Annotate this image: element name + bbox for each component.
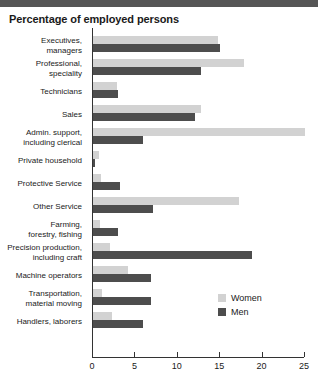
bar-men	[92, 251, 252, 259]
chart-row: Handlers, laborers	[0, 310, 318, 333]
category-label-line: Technicians	[40, 87, 82, 96]
category-label-line: Farming,	[50, 220, 82, 229]
category-label: Precision production,including craft	[0, 241, 86, 264]
chart-row: Professional,speciality	[0, 57, 318, 80]
category-label-line: Transportation,	[28, 289, 82, 298]
legend-swatch-women-icon	[218, 294, 226, 302]
category-label: Other Service	[0, 195, 86, 218]
bar-group	[92, 126, 318, 149]
bar-group	[92, 80, 318, 103]
x-axis-tick-label: 0	[89, 361, 94, 371]
bar-men	[92, 67, 201, 75]
chart-row: Other Service	[0, 195, 318, 218]
chart-page: Percentage of employed persons Executive…	[0, 0, 318, 382]
x-axis-tick	[219, 352, 220, 357]
bar-group	[92, 57, 318, 80]
bar-men	[92, 320, 143, 328]
bar-group	[92, 103, 318, 126]
category-label-line: Private household	[18, 156, 82, 165]
x-axis-tick	[304, 352, 305, 357]
bar-group	[92, 34, 318, 57]
page-title: Percentage of employed persons	[9, 13, 179, 25]
bar-women	[92, 197, 239, 205]
x-axis-tick-label: 5	[132, 361, 137, 371]
bar-men	[92, 205, 153, 213]
category-label-line: including clerical	[23, 138, 82, 147]
category-label-line: Professional,	[36, 59, 82, 68]
bar-group	[92, 149, 318, 172]
chart-row: Private household	[0, 149, 318, 172]
category-label: Farming,forestry, fishing	[0, 218, 86, 241]
category-label: Admin. support,including clerical	[0, 126, 86, 149]
legend-item-men[interactable]: Men	[218, 307, 262, 317]
bar-group	[92, 264, 318, 287]
x-axis-line	[92, 357, 304, 358]
category-label-line: speciality	[49, 69, 82, 78]
category-label-line: managers	[46, 46, 82, 55]
x-axis-tick	[177, 352, 178, 357]
bar-men	[92, 297, 151, 305]
category-label: Professional,speciality	[0, 57, 86, 80]
legend-item-women[interactable]: Women	[218, 293, 262, 303]
bar-group	[92, 195, 318, 218]
chart-row: Farming,forestry, fishing	[0, 218, 318, 241]
x-axis-tick	[134, 352, 135, 357]
bar-men	[92, 44, 220, 52]
bar-women	[92, 59, 244, 67]
bar-men	[92, 274, 151, 282]
category-label: Machine operators	[0, 264, 86, 287]
bar-women	[92, 266, 128, 274]
bar-women	[92, 36, 218, 44]
bar-women	[92, 174, 101, 182]
category-label-line: forestry, fishing	[28, 230, 82, 239]
category-label: Protective Service	[0, 172, 86, 195]
category-label: Handlers, laborers	[0, 310, 86, 333]
plot-area: Executives,managersProfessional,speciali…	[0, 28, 318, 358]
bar-men	[92, 182, 120, 190]
legend-label: Men	[231, 307, 249, 317]
bar-women	[92, 105, 201, 113]
bar-group	[92, 287, 318, 310]
category-label-line: Other Service	[33, 202, 82, 211]
bar-women	[92, 128, 305, 136]
chart-row: Sales	[0, 103, 318, 126]
category-label-line: material moving	[26, 299, 82, 308]
category-label-line: including craft	[33, 253, 82, 262]
chart-row: Precision production,including craft	[0, 241, 318, 264]
chart-row: Executives,managers	[0, 34, 318, 57]
category-label: Sales	[0, 103, 86, 126]
bar-women	[92, 243, 110, 251]
x-axis-tick	[262, 352, 263, 357]
x-axis-tick-label: 25	[299, 361, 309, 371]
category-label-line: Sales	[62, 110, 82, 119]
category-label-line: Executives,	[41, 36, 82, 45]
category-label: Private household	[0, 149, 86, 172]
bar-group	[92, 172, 318, 195]
bar-group	[92, 218, 318, 241]
bar-men	[92, 113, 195, 121]
bar-women	[92, 220, 100, 228]
category-label-line: Handlers, laborers	[17, 317, 82, 326]
bar-women	[92, 151, 99, 159]
bar-women	[92, 82, 117, 90]
chart-row: Protective Service	[0, 172, 318, 195]
category-label-line: Precision production,	[7, 243, 82, 252]
legend-swatch-men-icon	[218, 308, 226, 316]
category-label-line: Machine operators	[16, 271, 82, 280]
chart-row: Transportation,material moving	[0, 287, 318, 310]
category-label: Transportation,material moving	[0, 287, 86, 310]
bar-men	[92, 228, 118, 236]
chart-row: Technicians	[0, 80, 318, 103]
x-axis-tick-label: 10	[172, 361, 182, 371]
category-label: Executives,managers	[0, 34, 86, 57]
y-axis-line	[92, 28, 93, 358]
bar-men	[92, 136, 143, 144]
bar-women	[92, 312, 112, 320]
bar-women	[92, 289, 102, 297]
bar-group	[92, 310, 318, 333]
chart-row: Admin. support,including clerical	[0, 126, 318, 149]
legend-label: Women	[231, 293, 262, 303]
category-label-line: Admin. support,	[26, 128, 82, 137]
bar-group	[92, 241, 318, 264]
chart-row: Machine operators	[0, 264, 318, 287]
